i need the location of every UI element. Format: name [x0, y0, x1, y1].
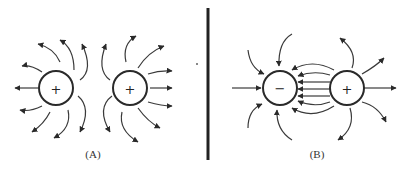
field-line — [125, 36, 136, 62]
panel-label-a: (A) — [85, 148, 101, 161]
charge-sign: − — [275, 81, 286, 96]
stray-dot — [196, 63, 198, 65]
field-line — [54, 110, 69, 138]
field-line — [362, 58, 384, 74]
field-lines-figure: + + (A) — [0, 0, 411, 172]
field-line — [277, 110, 292, 140]
field-line — [148, 71, 172, 74]
field-line — [103, 96, 112, 132]
field-line — [78, 96, 86, 132]
field-line — [32, 112, 50, 132]
field-line — [102, 44, 110, 80]
field-line — [20, 106, 42, 111]
field-line — [338, 108, 352, 140]
field-line — [279, 34, 292, 66]
panel-b: − + (B) — [232, 34, 396, 161]
field-line — [80, 44, 88, 80]
panel-a: + + (A) — [15, 36, 172, 161]
field-line — [138, 46, 164, 68]
charge-sign: + — [342, 82, 353, 97]
field-line — [292, 106, 334, 114]
charge-sign: + — [51, 82, 62, 97]
field-line — [298, 73, 330, 76]
field-line — [292, 64, 334, 70]
field-line — [138, 108, 160, 128]
field-line — [362, 102, 386, 122]
field-line — [340, 38, 354, 68]
panel-b-dipole-field-lines — [292, 64, 334, 114]
field-line — [38, 44, 60, 62]
field-line — [248, 50, 264, 74]
field-line — [298, 101, 330, 105]
field-line — [22, 66, 42, 72]
field-line — [148, 102, 172, 106]
panel-label-b: (B) — [310, 148, 325, 161]
field-line — [121, 112, 138, 142]
charge-sign: + — [125, 82, 136, 97]
field-line — [248, 104, 262, 128]
field-line — [60, 40, 74, 70]
